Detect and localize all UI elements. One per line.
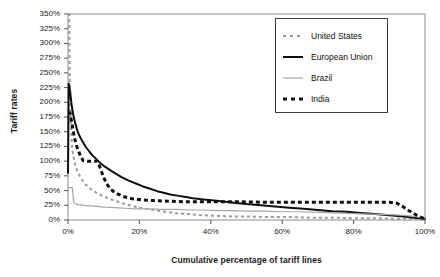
legend-item-european-union[interactable]: European Union [282,48,372,66]
legend-label: India [311,94,329,104]
legend-swatch-icon [282,94,304,104]
y-axis-tick-label: 75% [26,171,60,180]
x-axis-tick-label: 0% [48,227,88,236]
y-axis-tick-label: 350% [26,9,60,18]
y-axis-tick-label: 25% [26,200,60,209]
x-axis-title: Cumulative percentage of tariff lines [68,255,425,265]
series-line-india [68,113,425,219]
chart-legend: United StatesEuropean UnionBrazilIndia [275,18,388,113]
y-axis-tick-label: 0% [26,215,60,224]
y-axis-tick-label: 225% [26,83,60,92]
y-axis-tick-label: 50% [26,186,60,195]
y-axis-tick-label: 325% [26,24,60,33]
x-axis-tick-label: 100% [405,227,440,236]
y-axis-tick-label: 200% [26,97,60,106]
x-axis-tick-label: 20% [119,227,159,236]
y-axis-tick-label: 150% [26,127,60,136]
legend-swatch-icon [282,73,304,83]
legend-label: Brazil [311,73,332,83]
legend-label: United States [311,31,362,41]
y-axis-tick-label: 100% [26,156,60,165]
x-axis-tick-label: 40% [191,227,231,236]
x-axis-tick-label: 80% [334,227,374,236]
y-axis-tick-label: 125% [26,141,60,150]
y-axis-tick-label: 300% [26,38,60,47]
y-axis-tick-label: 250% [26,68,60,77]
legend-item-brazil[interactable]: Brazil [282,69,332,87]
legend-label: European Union [311,52,372,62]
legend-swatch-icon [282,52,304,62]
y-axis-tick-label: 275% [26,53,60,62]
y-axis-tick-label: 175% [26,112,60,121]
x-axis-tick-label: 60% [262,227,302,236]
y-axis-title: Tariff rates [9,71,19,151]
legend-item-india[interactable]: India [282,90,329,108]
legend-swatch-icon [282,31,304,41]
legend-item-united-states[interactable]: United States [282,27,362,45]
chart-container: Tariff rates Cumulative percentage of ta… [0,0,440,277]
